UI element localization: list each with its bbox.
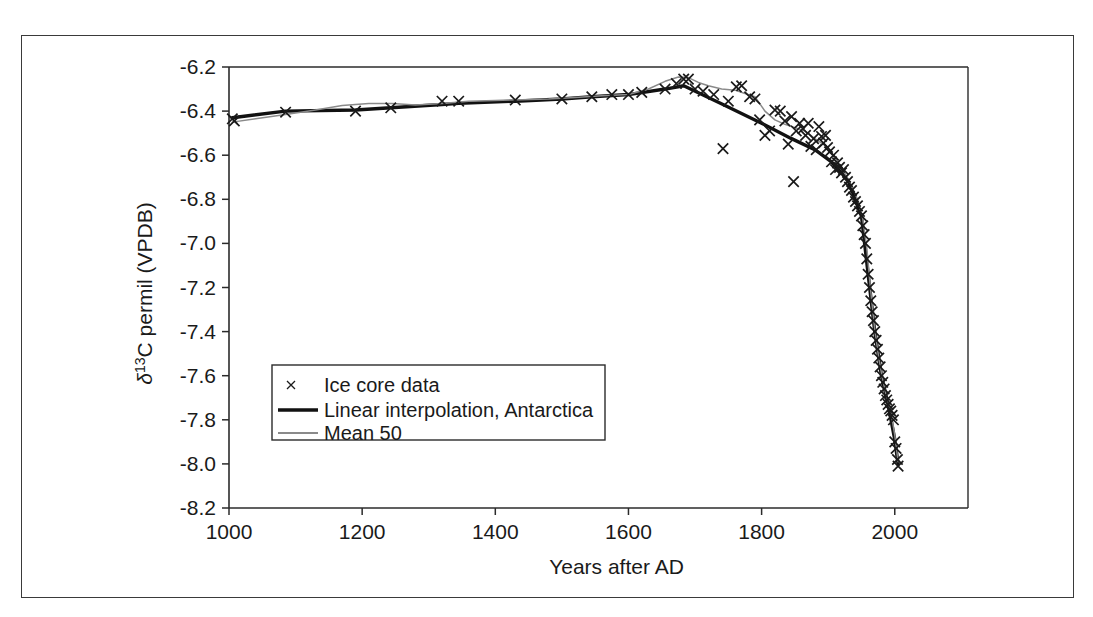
y-tick-label: -7.2: [180, 276, 216, 299]
x-axis-title: Years after AD: [549, 555, 684, 578]
y-tick-label: -6.6: [180, 143, 216, 166]
x-tick-label: 2000: [871, 520, 918, 543]
x-tick-label: 1800: [738, 520, 785, 543]
y-tick-label: -7.0: [180, 231, 216, 254]
legend-label: Ice core data: [324, 374, 441, 396]
y-tick-label: -7.8: [180, 408, 216, 431]
data-point-cross: [723, 96, 733, 106]
y-tick-label: -6.8: [180, 187, 216, 210]
legend: Ice core dataLinear interpolation, Antar…: [272, 365, 605, 444]
legend-label: Mean 50: [324, 422, 402, 444]
y-axis-title: δ13C permil (VPDB): [132, 202, 156, 384]
y-tick-label: -8.2: [180, 496, 216, 519]
data-point-cross: [718, 143, 728, 153]
y-tick-label: -6.2: [180, 55, 216, 78]
y-tick-label: -6.4: [180, 99, 217, 122]
x-tick-label: 1200: [339, 520, 386, 543]
y-tick-label: -7.4: [180, 320, 217, 343]
y-tick-label: -7.6: [180, 364, 216, 387]
data-point-cross: [783, 139, 793, 149]
data-point-cross: [786, 111, 796, 121]
data-point-cross: [788, 176, 798, 186]
data-point-cross: [814, 121, 824, 131]
ice-core-d13c-chart: -6.2-6.4-6.6-6.8-7.0-7.2-7.4-7.6-7.8-8.0…: [0, 0, 1093, 617]
data-point-cross: [803, 118, 813, 128]
legend-label: Linear interpolation, Antarctica: [324, 399, 594, 421]
figure-container: -6.2-6.4-6.6-6.8-7.0-7.2-7.4-7.6-7.8-8.0…: [0, 0, 1093, 617]
x-tick-label: 1000: [206, 520, 253, 543]
y-tick-label: -8.0: [180, 452, 216, 475]
x-tick-label: 1400: [472, 520, 519, 543]
x-tick-label: 1600: [605, 520, 652, 543]
